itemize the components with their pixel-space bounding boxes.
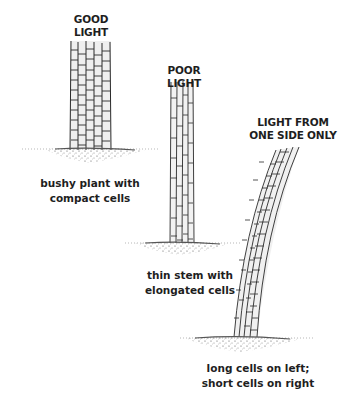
good-light-caption-line-1: bushy plant with [40,176,140,191]
good-light-caption: bushy plant with compact cells [40,176,140,206]
one-side-light-title: LIGHT FROM ONE SIDE ONLY [248,116,338,142]
one-side-light-title-line-1: LIGHT FROM [248,116,338,129]
good-light-title: GOOD LIGHT [60,13,122,39]
good-light-caption-line-2: compact cells [40,191,140,206]
one-side-light-stem [234,147,299,337]
one-side-light-title-line-2: ONE SIDE ONLY [248,129,338,142]
one-side-light-caption-line-1: long cells on left; [193,361,323,376]
one-side-light-caption: long cells on left; short cells on right [193,361,323,391]
poor-light-title: POOR LIGHT [154,64,214,90]
poor-light-caption-line-1: thin stem with [140,268,240,283]
one-side-light-soil [180,336,315,352]
poor-light-caption-line-2: elongated cells [140,283,240,298]
poor-light-stem [170,81,194,243]
good-light-stem [70,41,111,150]
good-light-soil [22,148,160,163]
poor-light-caption: thin stem with elongated cells [140,268,240,298]
poor-light-soil [125,242,240,255]
one-side-light-caption-line-2: short cells on right [193,376,323,391]
